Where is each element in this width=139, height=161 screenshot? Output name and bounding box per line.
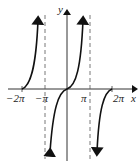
curve-left-branch: [22, 20, 38, 89]
x-axis-label: x: [130, 92, 136, 104]
function-graph: y x −2π −π π 2π: [0, 0, 139, 161]
tick-label-pi: π: [81, 92, 87, 104]
tick-label-2pi: 2π: [113, 92, 125, 104]
y-axis-label: y: [57, 3, 63, 15]
curve-right-branch: [97, 89, 112, 152]
tick-label-neg-2pi: −2π: [6, 92, 25, 104]
tick-label-neg-pi: −π: [35, 92, 48, 104]
